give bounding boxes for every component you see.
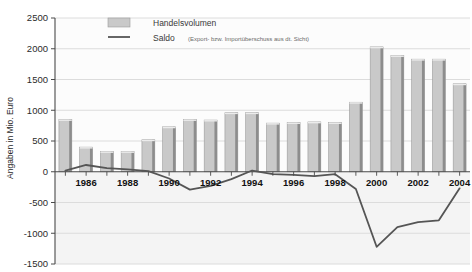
bar-top [453, 84, 466, 85]
x-tick-label: 1994 [242, 177, 264, 188]
bar-top [80, 147, 93, 148]
x-tick-label: 1990 [159, 177, 180, 188]
bar-top [225, 113, 238, 114]
bar-top [59, 119, 72, 120]
legend-note-saldo: (Export- bzw. Importüberschuss aus dt. S… [188, 36, 309, 42]
bar-top [100, 151, 113, 152]
bar-top [163, 127, 176, 128]
legend-label-saldo: Saldo [153, 33, 175, 43]
bar-shade [214, 120, 217, 172]
x-tick-label: 1996 [283, 177, 304, 188]
bar-shade [443, 59, 446, 172]
bar-shade [256, 113, 259, 172]
y-tick-label: -1000 [24, 228, 48, 239]
chart-container: -1500-1000-50005001000150020002500 19861… [0, 0, 472, 272]
y-tick-label: -500 [29, 197, 48, 208]
bar-shade [90, 147, 93, 172]
bar-top [287, 123, 300, 124]
y-tick-label: 1500 [27, 74, 48, 85]
bar-top [183, 119, 196, 120]
y-tick-label: 2500 [27, 12, 48, 23]
chart-svg: -1500-1000-50005001000150020002500 19861… [0, 0, 472, 272]
bar-top [349, 102, 362, 103]
y-tick-label: 1000 [27, 105, 48, 116]
bar-top [329, 123, 342, 124]
bar-shade [152, 140, 155, 172]
bar-shade [69, 119, 72, 171]
legend-label-handelsvolumen: Handelsvolumen [153, 18, 217, 28]
x-tick-label: 2000 [366, 177, 387, 188]
bar-top [391, 56, 404, 57]
bar-shade [277, 123, 280, 172]
bar-shade [422, 59, 425, 172]
bar-top [121, 151, 134, 152]
bar-shade [339, 123, 342, 172]
bar-top [204, 120, 217, 121]
bar-top [370, 47, 383, 48]
y-tick-label: -1500 [24, 258, 48, 269]
x-tick-label: 1992 [200, 177, 221, 188]
bar-shade [131, 151, 134, 171]
bar-shade [194, 119, 197, 171]
bar-shade [318, 122, 321, 172]
bar-shade [173, 127, 176, 172]
bar-shade [463, 84, 466, 172]
bar-shade [360, 102, 363, 171]
bar-shade [235, 113, 238, 172]
x-tick-label: 2004 [449, 177, 471, 188]
bar-top [246, 113, 259, 114]
bar-top [266, 123, 279, 124]
legend-swatch-handelsvolumen [108, 18, 130, 27]
x-tick-label: 1988 [117, 177, 138, 188]
bar-top [308, 122, 321, 123]
bar-top [142, 140, 155, 141]
x-tick-label: 1986 [76, 177, 97, 188]
y-tick-label: 2000 [27, 43, 48, 54]
x-tick-label: 2002 [408, 177, 429, 188]
bar-shade [380, 47, 383, 172]
y-tick-label: 0 [43, 166, 48, 177]
y-tick-label: 500 [32, 135, 48, 146]
bar-top [412, 59, 425, 60]
bar-top [432, 59, 445, 60]
y-axis-title: Angaben in Mio. Euro [5, 97, 15, 179]
bar-shade [297, 123, 300, 172]
x-tick-label: 1998 [325, 177, 346, 188]
bar-shade [401, 56, 404, 172]
